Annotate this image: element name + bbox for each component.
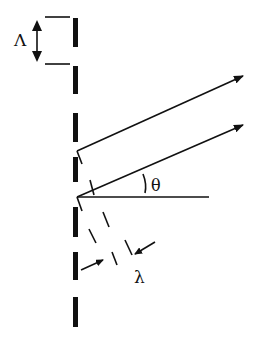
period-marker xyxy=(37,17,70,64)
grating-dashed-line xyxy=(73,18,78,327)
upper-ray xyxy=(77,76,243,151)
period-label: Λ xyxy=(13,30,27,50)
angle-label: θ xyxy=(151,176,161,195)
grating-diffraction-diagram: Λ θ λ xyxy=(0,0,254,349)
angle-arc xyxy=(143,174,146,193)
wavelength-label: λ xyxy=(134,267,145,287)
wavefront-dashes xyxy=(89,212,132,265)
wavelength-arrows xyxy=(81,242,155,270)
